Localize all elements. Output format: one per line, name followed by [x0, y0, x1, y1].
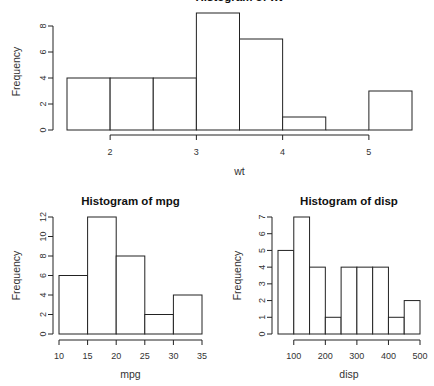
histogram-bar — [369, 91, 412, 130]
y-tick-label: 2 — [257, 298, 267, 303]
histogram-bar — [294, 217, 310, 334]
x-tick-label: 25 — [140, 351, 150, 361]
y-tick-label: 2 — [38, 101, 48, 106]
bars — [67, 13, 412, 130]
x-tick-label: 3 — [194, 147, 199, 157]
histogram-bar — [388, 317, 404, 334]
histogram-bar — [173, 295, 202, 334]
y-tick-label: 0 — [257, 331, 267, 336]
histogram-figure: 02468Frequency2345wtHistogram of mpg0246… — [0, 0, 434, 386]
y-tick-label: 5 — [257, 248, 267, 253]
y-tick-label: 7 — [257, 214, 267, 219]
y-tick-label: 3 — [257, 281, 267, 286]
y-tick-label: 2 — [38, 312, 48, 317]
y-axis: 02468Frequency — [10, 23, 53, 132]
histogram-bar — [310, 267, 326, 334]
y-tick-label: 12 — [38, 212, 48, 222]
chart-title-clipped: Histogram of wt — [196, 0, 283, 3]
x-tick-label: 4 — [280, 147, 285, 157]
y-tick-label: 8 — [38, 23, 48, 28]
chart-title: Histogram of mpg — [81, 195, 179, 207]
x-tick-label: 2 — [108, 147, 113, 157]
y-tick-label: 0 — [38, 331, 48, 336]
y-tick-label: 6 — [38, 273, 48, 278]
x-axis-label: mpg — [120, 368, 141, 380]
histogram-bar — [325, 317, 341, 334]
x-tick-label: 30 — [168, 351, 178, 361]
y-axis: 024681012Frequency — [10, 212, 53, 337]
x-tick-label: 400 — [381, 351, 396, 361]
x-tick-label: 200 — [318, 351, 333, 361]
histogram-mpg: Histogram of mpg024681012Frequency101520… — [10, 195, 207, 380]
y-tick-label: 1 — [257, 315, 267, 320]
histogram-bar — [145, 315, 174, 335]
histogram-wt: 02468Frequency2345wt — [10, 13, 412, 177]
histogram-bar — [357, 267, 373, 334]
x-axis: 2345wt — [108, 135, 372, 177]
histogram-bar — [116, 256, 145, 334]
y-tick-label: 0 — [38, 127, 48, 132]
x-axis-label: disp — [339, 368, 358, 380]
y-axis-label: Frequency — [231, 250, 243, 300]
y-tick-label: 4 — [38, 75, 48, 80]
x-tick-label: 35 — [197, 351, 207, 361]
y-tick-label: 6 — [257, 231, 267, 236]
histogram-bar — [240, 39, 283, 130]
x-axis-label: wt — [233, 165, 245, 177]
chart-title: Histogram of disp — [300, 195, 398, 207]
histogram-disp: Histogram of disp01234567Frequency100200… — [231, 195, 428, 380]
x-tick-label: 10 — [54, 351, 64, 361]
histogram-bar — [404, 301, 420, 334]
x-tick-label: 5 — [366, 147, 371, 157]
y-tick-label: 4 — [38, 292, 48, 297]
x-tick-label: 500 — [412, 351, 427, 361]
histogram-bar — [278, 250, 294, 334]
x-tick-label: 100 — [286, 351, 301, 361]
bars — [278, 217, 420, 334]
histogram-bar — [283, 117, 326, 130]
histogram-bar — [110, 78, 153, 130]
bars — [59, 217, 202, 334]
histogram-bar — [373, 267, 389, 334]
x-axis: 101520253035mpg — [54, 340, 207, 380]
y-axis-label: Frequency — [10, 46, 22, 96]
y-tick-label: 4 — [257, 265, 267, 270]
x-axis: 100200300400500disp — [286, 340, 427, 380]
x-tick-label: 15 — [83, 351, 93, 361]
y-tick-label: 10 — [38, 231, 48, 241]
histogram-bar — [196, 13, 239, 130]
y-tick-label: 8 — [38, 253, 48, 258]
y-axis-label: Frequency — [10, 250, 22, 300]
y-tick-label: 6 — [38, 49, 48, 54]
histogram-bar — [341, 267, 357, 334]
x-tick-label: 20 — [111, 351, 121, 361]
histogram-bar — [153, 78, 196, 130]
histogram-bar — [88, 217, 117, 334]
histogram-bar — [67, 78, 110, 130]
y-axis: 01234567Frequency — [231, 214, 272, 336]
x-tick-label: 300 — [349, 351, 364, 361]
histogram-bar — [59, 276, 88, 335]
